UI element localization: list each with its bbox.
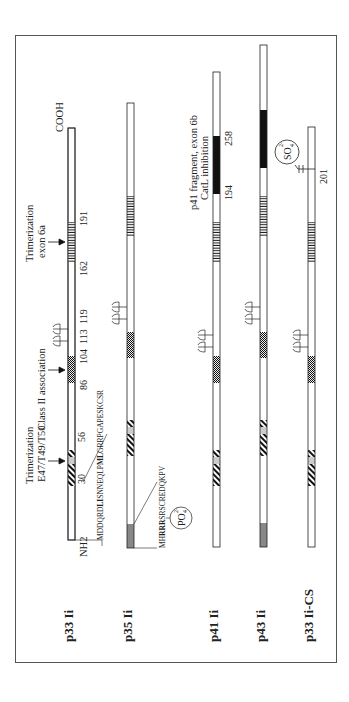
glycan-icons-p43 xyxy=(245,302,260,324)
trimerization-exon6a-label: Trimerization xyxy=(24,204,35,262)
label-p43-ii: p43 Ii xyxy=(253,609,268,642)
so4-sup: 2- xyxy=(278,142,284,147)
bar-p33-ii xyxy=(68,128,75,540)
nh2-label: NH2 xyxy=(78,537,89,557)
pos-86: 86 xyxy=(78,380,89,390)
p41-fragment-label: p41 fragment, exon 6b xyxy=(188,115,199,210)
svg-text:PO: PO xyxy=(176,513,187,526)
glycan-icons-p33cs xyxy=(293,330,308,352)
bar-p43-ii xyxy=(260,45,267,547)
exon6a-label: exon 6a xyxy=(36,225,47,258)
so4-sub: 4 xyxy=(289,144,295,147)
glycan-icons-p33 xyxy=(53,324,68,346)
pos-191: 191 xyxy=(78,211,89,226)
seq-p33: MDDQRDLISNNEQLPMLGRRPGAPESKCSR xyxy=(96,390,105,540)
label-p33-ii: p33 Ii xyxy=(61,609,76,642)
pos-113: 113 xyxy=(78,329,89,344)
catl-inhibition-label: CatL inhibition xyxy=(199,135,210,200)
e47-t49-t50-label: E47/T49/T50 xyxy=(36,425,47,482)
pos-119: 119 xyxy=(78,309,89,324)
svg-text:2-: 2- xyxy=(173,508,179,513)
trimerization-e47-label: Trimerization xyxy=(24,426,35,484)
bar-p33-ii-cs xyxy=(308,127,315,547)
pos-30: 30 xyxy=(76,474,87,484)
label-p33-ii-cs: p33 Ii-CS xyxy=(301,589,316,642)
bar-p41-ii xyxy=(213,72,220,547)
arrow-trimer1 xyxy=(48,458,65,464)
ii-isoform-diagram: p33 Ii p35 Ii p41 Ii p43 Ii p33 Ii-CS NH… xyxy=(0,0,349,702)
phosphate-icon: PO 2- 4 xyxy=(166,507,192,529)
bar-p35-ii xyxy=(127,103,134,548)
arrow-trimer2 xyxy=(48,239,65,245)
svg-text:4: 4 xyxy=(182,510,188,513)
pos-162: 162 xyxy=(78,261,89,276)
glycan-icons-p35 xyxy=(112,302,127,324)
label-p35-ii: p35 Ii xyxy=(120,609,135,642)
seq-p35: MHRRRSRSCREDQKPV xyxy=(158,465,167,548)
so4-label: SO xyxy=(282,147,293,160)
pos-56: 56 xyxy=(76,432,87,442)
glycan-icons-p41 xyxy=(198,330,213,352)
cooh-label: COOH xyxy=(54,102,65,132)
pos-194: 194 xyxy=(223,185,234,200)
pos-104: 104 xyxy=(78,349,89,364)
pos-258: 258 xyxy=(223,131,234,146)
arrow-classii xyxy=(48,367,65,373)
pos-201: 201 xyxy=(318,169,329,184)
classii-association-label: Class II association xyxy=(36,348,47,430)
label-p41-ii: p41 Ii xyxy=(206,609,221,642)
